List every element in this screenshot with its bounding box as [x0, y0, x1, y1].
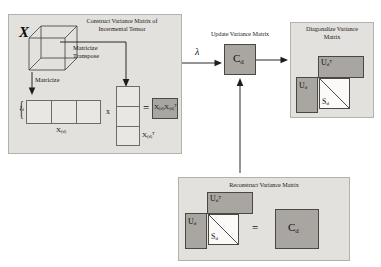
matricize-transpose-label: Matricize Transpose	[73, 44, 99, 60]
construct-panel-title: Construct Variance Matrix of Incermental…	[66, 17, 178, 32]
reconstruct-cd-label: Cd	[288, 221, 299, 234]
diagonalize-panel-title-line2: Matrix	[292, 33, 372, 41]
update-to-diagonalize-arrow	[256, 53, 290, 67]
multiplication-sign: x	[106, 107, 110, 116]
diagram-canvas: Construct Variance Matrix of Incermental…	[0, 0, 381, 267]
matrix-x-d-transpose-label: X(d)T	[142, 131, 155, 139]
reconstruct-to-update-arrow	[233, 75, 247, 173]
diagonalize-u-label: Ud	[299, 81, 307, 90]
matricize-label: Matricize	[35, 76, 59, 83]
construct-panel-title-line1: Construct Variance Matrix of	[66, 17, 178, 25]
reconstruct-ut-label: UdT	[210, 194, 221, 203]
diagonalize-ut-label: UdT	[321, 58, 332, 67]
reconstruct-u-label: Ud	[188, 217, 196, 226]
equals-sign-reconstruct: =	[252, 221, 258, 233]
lambda-arrow	[182, 56, 224, 70]
reconstruct-panel-title: Reconstruct Variance Matrix	[180, 181, 348, 189]
diagonalize-panel-title: Diagonalize Variance Matrix	[292, 25, 372, 40]
matrix-x-d-transpose-divider-2	[116, 126, 140, 127]
row-index-label: Id	[20, 105, 24, 112]
construct-panel-title-line2: Incermental Tensor	[66, 25, 178, 33]
reconstruct-s-label: Sd	[211, 232, 218, 241]
matrix-x-d	[26, 100, 101, 124]
diagonalize-panel-title-line1: Diagonalize Variance	[292, 25, 372, 33]
update-panel-title: Update Variance Matrix	[190, 30, 290, 38]
matricize-transpose-line1: Matricize	[73, 44, 99, 52]
update-variance-box-label: Cd	[233, 52, 244, 65]
matrix-x-d-transpose-divider-1	[116, 106, 140, 107]
matrix-x-d-divider-1	[51, 100, 52, 124]
matricize-transpose-line2: Transpose	[73, 52, 99, 60]
lambda-label: λ	[195, 46, 199, 57]
matrix-x-d-transpose	[116, 86, 140, 146]
variance-result-label: X(d)X(d)T	[154, 103, 177, 111]
matrix-x-d-label: X(d)	[56, 126, 66, 134]
matrix-x-d-divider-2	[76, 100, 77, 124]
equals-sign-construct: =	[143, 101, 149, 113]
diagonalize-s-label: Sd	[322, 97, 329, 106]
